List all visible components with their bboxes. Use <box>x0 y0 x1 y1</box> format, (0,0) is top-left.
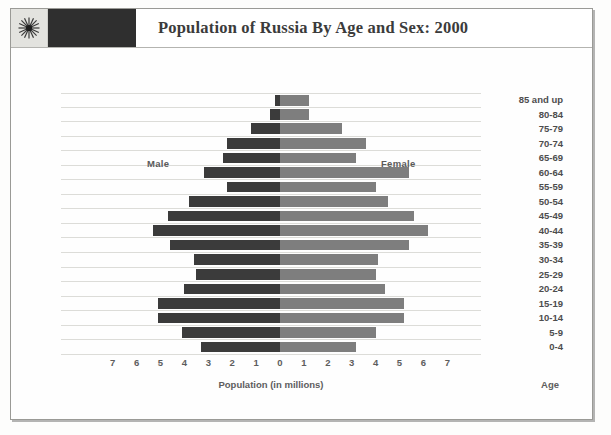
x-tick-label: 0 <box>272 357 288 368</box>
chart-area: Male Female 765432101234567 85 and up80-… <box>11 47 592 419</box>
series-label-female: Female <box>381 158 416 169</box>
pyramid-row <box>61 311 481 326</box>
bar-male-35-39 <box>170 240 280 251</box>
age-group-label: 65-69 <box>481 151 567 166</box>
x-tick-label: 2 <box>320 357 336 368</box>
bar-male-30-34 <box>194 254 280 265</box>
pyramid-row <box>61 268 481 283</box>
pyramid-row <box>61 195 481 210</box>
bar-male-40-44 <box>153 225 280 236</box>
bar-female-0-4 <box>280 342 356 353</box>
bar-female-80-84 <box>280 109 309 120</box>
bar-male-65-69 <box>223 153 280 164</box>
x-tick-label: 7 <box>105 357 121 368</box>
bar-female-65-69 <box>280 153 356 164</box>
header-band: Population of Russia By Age and Sex: 200… <box>11 9 592 48</box>
pyramid-row <box>61 108 481 123</box>
age-group-label: 40-44 <box>481 224 567 239</box>
x-tick-label: 5 <box>153 357 169 368</box>
pyramid-row <box>61 253 481 268</box>
age-axis-labels: 85 and up80-8475-7970-7465-6960-6455-595… <box>481 93 567 355</box>
pyramid-row <box>61 238 481 253</box>
x-tick-label: 6 <box>129 357 145 368</box>
title-cell: Population of Russia By Age and Sex: 200… <box>136 9 592 47</box>
logo-cell <box>11 9 48 47</box>
x-tick-label: 5 <box>392 357 408 368</box>
bar-male-5-9 <box>182 327 280 338</box>
age-group-label: 25-29 <box>481 268 567 283</box>
bar-male-50-54 <box>189 196 280 207</box>
page-title: Population of Russia By Age and Sex: 200… <box>158 18 468 38</box>
bar-male-10-14 <box>158 313 280 324</box>
bar-male-60-64 <box>204 167 280 178</box>
header-dark-block <box>48 9 136 47</box>
chart-frame: Population of Russia By Age and Sex: 200… <box>10 8 593 420</box>
series-label-male: Male <box>147 158 169 169</box>
age-group-label: 30-34 <box>481 253 567 268</box>
x-tick-label: 2 <box>224 357 240 368</box>
pyramid-row <box>61 224 481 239</box>
age-group-label: 55-59 <box>481 180 567 195</box>
x-tick-label: 3 <box>200 357 216 368</box>
bar-male-70-74 <box>227 138 280 149</box>
bar-female-70-74 <box>280 138 366 149</box>
x-tick-label: 1 <box>248 357 264 368</box>
bar-male-25-29 <box>196 269 280 280</box>
pyramid-row <box>61 340 481 355</box>
starburst-icon <box>18 17 40 39</box>
bar-female-5-9 <box>280 327 376 338</box>
age-group-label: 0-4 <box>481 340 567 355</box>
age-group-label: 85 and up <box>481 93 567 108</box>
age-group-label: 10-14 <box>481 311 567 326</box>
age-group-label: 50-54 <box>481 195 567 210</box>
age-group-label: 70-74 <box>481 137 567 152</box>
age-group-label: 35-39 <box>481 238 567 253</box>
bar-female-85-and-up <box>280 95 309 106</box>
bar-male-75-79 <box>251 123 280 134</box>
age-group-label: 5-9 <box>481 326 567 341</box>
page-root: Population of Russia By Age and Sex: 200… <box>0 0 611 435</box>
pyramid-row <box>61 93 481 108</box>
x-tick-label: 4 <box>176 357 192 368</box>
x-axis-caption: Population (in millions) <box>61 379 481 390</box>
bar-female-10-14 <box>280 313 404 324</box>
pyramid-row <box>61 209 481 224</box>
pyramid-row <box>61 326 481 341</box>
bar-female-35-39 <box>280 240 409 251</box>
pyramid-row <box>61 180 481 195</box>
bar-female-50-54 <box>280 196 388 207</box>
pyramid-row <box>61 137 481 152</box>
age-group-label: 45-49 <box>481 209 567 224</box>
bar-female-55-59 <box>280 182 376 193</box>
pyramid-row <box>61 166 481 181</box>
bar-female-40-44 <box>280 225 428 236</box>
pyramid-row <box>61 151 481 166</box>
age-axis-caption: Age <box>481 379 567 390</box>
bar-female-45-49 <box>280 211 414 222</box>
bar-female-15-19 <box>280 298 404 309</box>
age-group-label: 15-19 <box>481 297 567 312</box>
bar-male-45-49 <box>168 211 280 222</box>
pyramid-row <box>61 297 481 312</box>
bar-female-20-24 <box>280 284 385 295</box>
pyramid-row <box>61 122 481 137</box>
bar-female-75-79 <box>280 123 342 134</box>
pyramid-row <box>61 282 481 297</box>
x-tick-label: 1 <box>296 357 312 368</box>
age-group-label: 80-84 <box>481 108 567 123</box>
x-tick-label: 6 <box>415 357 431 368</box>
age-group-label: 20-24 <box>481 282 567 297</box>
bar-male-55-59 <box>227 182 280 193</box>
bar-male-20-24 <box>184 284 280 295</box>
bar-female-25-29 <box>280 269 376 280</box>
x-tick-label: 7 <box>439 357 455 368</box>
bar-male-80-84 <box>270 109 280 120</box>
age-group-label: 60-64 <box>481 166 567 181</box>
x-axis-ticks: 765432101234567 <box>61 357 481 373</box>
x-tick-label: 3 <box>344 357 360 368</box>
bar-male-15-19 <box>158 298 280 309</box>
bar-male-0-4 <box>201 342 280 353</box>
age-group-label: 75-79 <box>481 122 567 137</box>
x-tick-label: 4 <box>368 357 384 368</box>
bar-female-30-34 <box>280 254 378 265</box>
